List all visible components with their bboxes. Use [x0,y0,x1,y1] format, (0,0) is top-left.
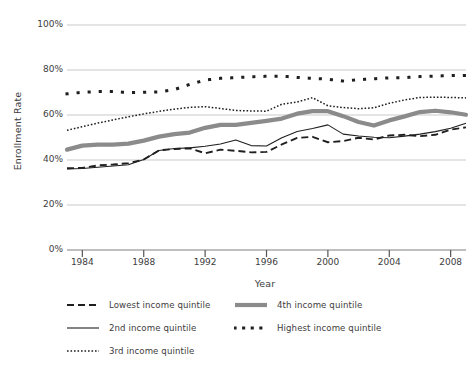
x-tick-label: 2004 [366,257,412,267]
legend-swatch-solid-thick-icon [234,298,268,312]
legend-swatch-dotted-square-icon [234,321,268,335]
x-tick-label: 1988 [121,257,167,267]
series-line [67,123,466,169]
legend-swatch-dotted-fine-icon [66,344,100,358]
legend-item[interactable]: 2nd income quintile [66,320,196,336]
legend-item[interactable]: Highest income quintile [234,320,381,336]
legend-label: Highest income quintile [277,323,381,333]
legend-label: Lowest income quintile [109,300,210,310]
series-0 [67,127,466,168]
series-4 [67,75,466,93]
series-line [67,127,466,168]
legend-swatch-solid-thin-icon [66,321,100,335]
x-tick-label: 1992 [182,257,228,267]
legend-label: 4th income quintile [277,300,362,310]
legend-label: 3rd income quintile [109,346,194,356]
legend-label: 2nd income quintile [109,323,196,333]
legend-swatch-dashed-icon [66,298,100,312]
x-tick-label: 2000 [305,257,351,267]
x-axis-title: Year [60,278,470,289]
legend-item[interactable]: 4th income quintile [234,297,362,313]
series-1 [67,123,466,169]
series-line [67,111,466,150]
chart-legend: Lowest income quintile2nd income quintil… [66,297,426,367]
x-tick-label: 2008 [428,257,474,267]
legend-item[interactable]: Lowest income quintile [66,297,210,313]
x-tick-label: 1996 [244,257,290,267]
series-3 [67,111,466,150]
series-line [67,75,466,93]
legend-item[interactable]: 3rd income quintile [66,343,194,359]
x-tick-label: 1984 [59,257,105,267]
x-axis-tick-labels: 1984198819921996200020042008 [0,257,474,273]
chart-figure: Enrollment Rate 100%80%60%40%20%0% 19841… [0,0,474,373]
